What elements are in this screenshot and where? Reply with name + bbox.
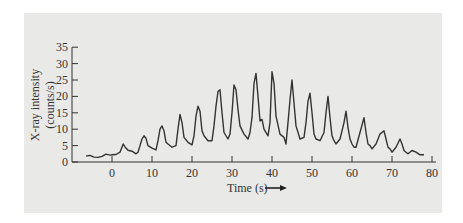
x-tick-label: 10 [146, 166, 158, 180]
x-tick-label: 80 [426, 166, 438, 180]
y-axis-units: (counts/s) [43, 81, 57, 128]
y-tick-label: 25 [56, 73, 68, 87]
y-tick-label: 15 [56, 106, 68, 120]
x-axis-title: Time (s) [227, 181, 268, 195]
y-tick-label: 20 [56, 89, 68, 103]
axes [72, 47, 436, 162]
y-tick-label: 35 [56, 40, 68, 54]
y-axis-ticks: 05101520253035 [56, 40, 78, 169]
x-axis-arrow-icon [265, 185, 287, 191]
x-tick-label: 70 [386, 166, 398, 180]
intensity-series-line [86, 72, 424, 158]
line-chart: 05101520253035 01020304050607080 X-ray i… [0, 0, 463, 223]
y-tick-label: 10 [56, 122, 68, 136]
x-tick-label: 60 [346, 166, 358, 180]
y-axis-title: X-ray intensity [28, 69, 42, 141]
y-tick-label: 5 [62, 139, 68, 153]
y-tick-label: 0 [62, 155, 68, 169]
x-tick-label: 20 [186, 166, 198, 180]
y-tick-label: 30 [56, 57, 68, 71]
x-tick-label: 40 [266, 166, 278, 180]
x-tick-label: 0 [109, 166, 115, 180]
x-axis-ticks: 01020304050607080 [109, 156, 438, 180]
x-tick-label: 50 [306, 166, 318, 180]
x-tick-label: 30 [226, 166, 238, 180]
